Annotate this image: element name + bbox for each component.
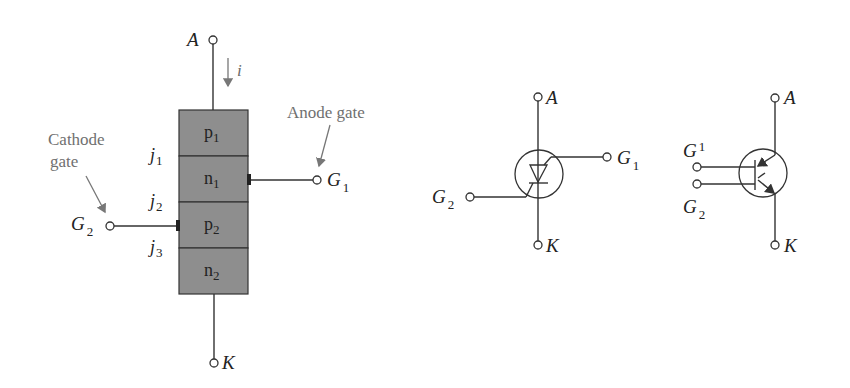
tr-anode-label: A (782, 87, 796, 108)
tr-anode-terminal (771, 94, 779, 102)
cathode-gate-caption-line1: Cathode (48, 130, 105, 149)
four-layer-structure: A i p1 n1 p2 n2 j1 j2 j3 G1 Anode gate G… (48, 29, 365, 373)
scs-anode-label: A (544, 87, 558, 108)
anode-gate-contact (247, 174, 251, 185)
scs-g2-label: G2 (432, 186, 454, 212)
scs-anode-terminal (534, 93, 542, 101)
scs-g1-diag (544, 157, 551, 165)
tr-collector-tick (758, 173, 765, 178)
cathode-gate-contact (176, 220, 180, 231)
scs-diagram: A i p1 n1 p2 n2 j1 j2 j3 G1 Anode gate G… (0, 0, 850, 388)
tr-upper-emitter-icon (758, 155, 775, 166)
scs-g2-terminal (466, 193, 474, 201)
tr-cathode-terminal (771, 241, 779, 249)
tr-g2-label: G2 (683, 196, 705, 222)
scs-g2-diag (526, 183, 533, 197)
tr-lower-emitter-icon (758, 180, 774, 193)
current-label: i (237, 61, 242, 80)
scs-cathode-label: K (545, 235, 560, 256)
tr-g2-terminal (693, 180, 701, 188)
junction-j2-label: j2 (148, 191, 163, 214)
tr-g1-terminal (693, 163, 701, 171)
cathode-label: K (221, 352, 236, 373)
scs-g1-terminal (603, 153, 611, 161)
cathode-terminal (210, 359, 218, 367)
cathode-gate-caption-line2: gate (50, 152, 78, 171)
junction-j1-label: j1 (148, 145, 163, 168)
tr-cathode-label: K (783, 235, 798, 256)
scs-g1-label: G1 (617, 147, 639, 173)
tr-g1-label: G1 (683, 139, 705, 161)
g2-terminal (106, 222, 114, 230)
tr-envelope (739, 149, 787, 197)
anode-gate-caption: Anode gate (287, 103, 365, 122)
g1-terminal (313, 176, 321, 184)
scs-cathode-terminal (534, 241, 542, 249)
anode-terminal (209, 36, 217, 44)
anode-label: A (185, 29, 199, 50)
transistor-symbol: A K G1 G2 (683, 87, 798, 256)
g1-label: G1 (327, 169, 349, 195)
junction-j3-label: j3 (148, 237, 163, 260)
anode-gate-pointer-icon (319, 125, 330, 166)
g2-label: G2 (71, 213, 93, 239)
cathode-gate-pointer-icon (86, 176, 105, 212)
scs-symbol: A G1 G2 K (432, 87, 639, 256)
